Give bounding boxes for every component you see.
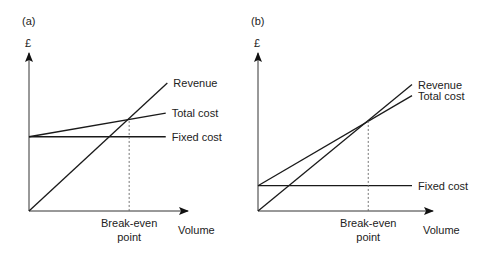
fixed-cost-label: Fixed cost bbox=[418, 180, 468, 192]
break-even-label: Break-even bbox=[101, 217, 157, 229]
break-even-label: Break-even bbox=[340, 217, 396, 229]
x-axis-label: Volume bbox=[423, 224, 460, 236]
fixed-cost-label: Fixed cost bbox=[172, 131, 222, 143]
revenue-line bbox=[29, 83, 167, 211]
y-axis-label: £ bbox=[25, 37, 31, 49]
panel-b: (b)£RevenueTotal costFixed costBreak-eve… bbox=[251, 15, 468, 243]
break-even-label-line2: point bbox=[356, 231, 380, 243]
total-cost-line bbox=[258, 96, 412, 186]
y-axis-label: £ bbox=[254, 37, 260, 49]
panel-a: (a)£RevenueTotal costFixed costBreak-eve… bbox=[22, 15, 222, 243]
panel-label: (b) bbox=[251, 15, 264, 27]
break-even-label-line2: point bbox=[117, 231, 141, 243]
panel-label: (a) bbox=[22, 15, 35, 27]
total-cost-label: Total cost bbox=[418, 90, 464, 102]
revenue-label: Revenue bbox=[173, 77, 217, 89]
total-cost-line bbox=[29, 113, 166, 137]
x-axis-label: Volume bbox=[178, 224, 215, 236]
total-cost-label: Total cost bbox=[172, 107, 218, 119]
break-even-diagrams: (a)£RevenueTotal costFixed costBreak-eve… bbox=[0, 0, 493, 255]
revenue-line bbox=[258, 85, 412, 211]
